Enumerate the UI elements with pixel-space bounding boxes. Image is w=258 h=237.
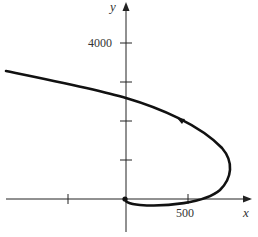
parametric-curve bbox=[6, 71, 230, 205]
chart-plot: y x 4000 500 bbox=[0, 0, 258, 237]
y-tick-label-4000: 4000 bbox=[88, 36, 112, 50]
x-tick-label-500: 500 bbox=[176, 206, 194, 220]
y-axis-arrow-icon bbox=[123, 2, 130, 11]
origin-dot bbox=[122, 196, 127, 201]
x-axis-arrow-icon bbox=[243, 196, 252, 203]
y-axis-label: y bbox=[108, 0, 116, 14]
x-axis-label: x bbox=[242, 205, 249, 220]
